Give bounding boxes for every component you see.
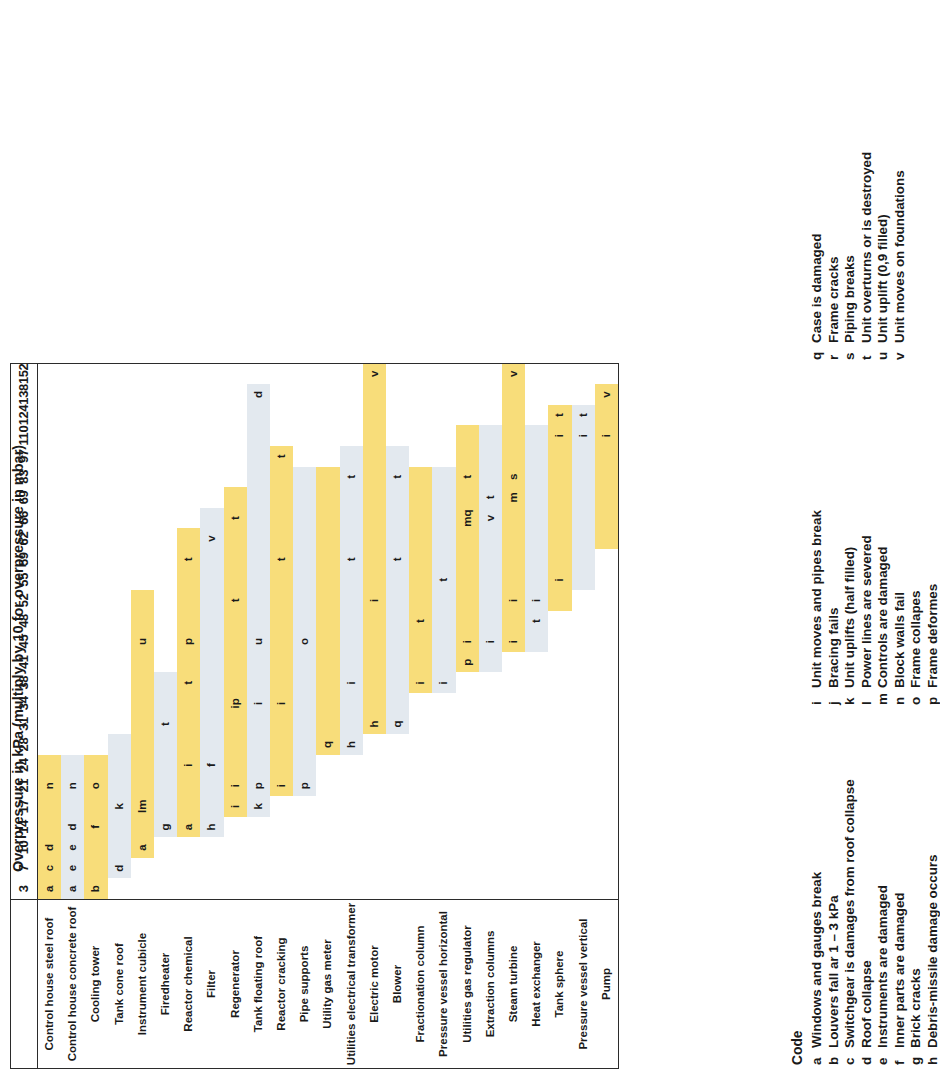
- legend-key: f: [892, 1048, 907, 1065]
- table-corner: [11, 900, 38, 1069]
- matrix-cell: [409, 775, 432, 796]
- matrix-cell: [131, 714, 154, 735]
- matrix-cell: [84, 631, 107, 652]
- matrix-cell: [595, 570, 618, 591]
- matrix-cell: [363, 425, 386, 446]
- matrix-cell: [154, 796, 177, 817]
- matrix-cell: [270, 528, 293, 549]
- matrix-cell: [363, 446, 386, 467]
- matrix-cell: [84, 508, 107, 529]
- matrix-cell: [316, 837, 339, 858]
- matrix-cell: [572, 837, 595, 858]
- matrix-cell-code: t: [386, 549, 409, 570]
- legend-item: vUnit moves on foundations: [892, 30, 907, 360]
- matrix-cell: [200, 364, 223, 385]
- matrix-cell: [386, 755, 409, 776]
- legend-key: p: [925, 688, 940, 705]
- matrix-cell: [386, 858, 409, 879]
- matrix-cell-code: d: [108, 858, 131, 879]
- matrix-cell: [386, 611, 409, 632]
- matrix-cell: [502, 878, 525, 899]
- matrix-cell: [525, 672, 548, 693]
- matrix-cell-code: d: [38, 837, 62, 858]
- table-row: Control house steel roofacdn: [38, 364, 62, 1068]
- matrix-cell: [84, 611, 107, 632]
- matrix-cell: [131, 446, 154, 467]
- matrix-cell: [595, 755, 618, 776]
- matrix-cell: [386, 775, 409, 796]
- matrix-cell: [177, 714, 200, 735]
- legend-text: Windows and gauges break: [809, 872, 824, 1048]
- matrix-cell: [38, 693, 62, 714]
- matrix-cell: [363, 775, 386, 796]
- matrix-cell: [200, 858, 223, 879]
- matrix-cell: [108, 364, 131, 385]
- table-row: Steam turbineiimsv: [502, 364, 525, 1068]
- matrix-cell: [84, 590, 107, 611]
- matrix-cell: [38, 631, 62, 652]
- matrix-cell: [154, 364, 177, 385]
- matrix-cell-code: t: [409, 611, 432, 632]
- legend-key: v: [892, 343, 907, 360]
- matrix-cell: [247, 487, 270, 508]
- matrix-cell: [224, 570, 247, 591]
- matrix-cell: [177, 693, 200, 714]
- matrix-cell: [270, 714, 293, 735]
- matrix-cell: [409, 755, 432, 776]
- matrix-cell: [479, 817, 502, 838]
- matrix-cell: [224, 858, 247, 879]
- table-row: Utilities electrical transformerhitt: [340, 364, 363, 1068]
- matrix-cell: [84, 672, 107, 693]
- matrix-cell: [316, 755, 339, 776]
- matrix-cell: [316, 611, 339, 632]
- legend-text: Switchgear is damages from roof collapse: [842, 779, 857, 1048]
- matrix-cell: [502, 405, 525, 426]
- matrix-cell: [502, 734, 525, 755]
- matrix-cell: [247, 590, 270, 611]
- matrix-cell: [479, 384, 502, 405]
- matrix-cell: [247, 858, 270, 879]
- matrix-cell: [131, 425, 154, 446]
- matrix-cell: [479, 714, 502, 735]
- matrix-cell: [340, 714, 363, 735]
- row-label: Filter: [200, 900, 223, 1069]
- matrix-cell-code: u: [247, 631, 270, 652]
- legend-key: s: [842, 343, 857, 360]
- legend-key: k: [842, 688, 857, 705]
- matrix-cell: [525, 384, 548, 405]
- matrix-cell-code: t: [224, 508, 247, 529]
- matrix-cell: [525, 796, 548, 817]
- matrix-cell: [572, 384, 595, 405]
- matrix-cell: [432, 652, 455, 673]
- row-label: Cooling tower: [84, 900, 107, 1069]
- matrix-cell: [432, 734, 455, 755]
- matrix-cell: [38, 549, 62, 570]
- row-label: Pressure vessel vertical: [572, 900, 595, 1069]
- matrix-cell: [432, 693, 455, 714]
- legend-item: sPiping breaks: [842, 30, 857, 360]
- matrix-cell: [108, 775, 131, 796]
- table-row: Fractionation columnit: [409, 364, 432, 1068]
- matrix-cell: [456, 425, 479, 446]
- matrix-cell: [38, 425, 62, 446]
- matrix-cell: [479, 755, 502, 776]
- table-row: Pressure vessel horizontalit: [432, 364, 455, 1068]
- legend-column-2: iUnit moves and pipes breakjBracing fail…: [809, 360, 940, 705]
- matrix-cell: [363, 672, 386, 693]
- column-header-152: 152: [11, 364, 38, 385]
- matrix-cell: [525, 405, 548, 426]
- matrix-cell: [316, 446, 339, 467]
- matrix-cell: [409, 425, 432, 446]
- matrix-cell: [409, 878, 432, 899]
- matrix-cell: [572, 467, 595, 488]
- matrix-cell-code: h: [340, 734, 363, 755]
- matrix-cell: [247, 508, 270, 529]
- matrix-cell: [316, 631, 339, 652]
- matrix-cell: [432, 631, 455, 652]
- matrix-cell: [293, 817, 316, 838]
- row-label: Pressure vessel horizontal: [432, 900, 455, 1069]
- matrix-cell: [595, 693, 618, 714]
- matrix-cell: [131, 775, 154, 796]
- matrix-cell: [386, 405, 409, 426]
- matrix-cell: [595, 817, 618, 838]
